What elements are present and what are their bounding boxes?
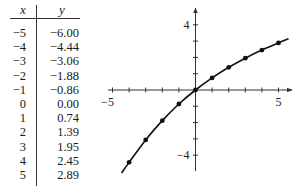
y-tick-label: −4 <box>177 148 190 162</box>
function-curve <box>122 39 289 173</box>
data-point <box>260 48 265 53</box>
data-points <box>127 40 281 164</box>
data-point <box>210 76 215 81</box>
data-point <box>177 102 182 107</box>
data-point <box>226 65 231 70</box>
data-point <box>143 137 148 142</box>
x-tick-label: 5 <box>276 95 282 109</box>
data-point <box>276 40 281 45</box>
x-tick-label: −5 <box>101 95 114 109</box>
data-point <box>193 88 198 93</box>
data-point <box>160 118 165 123</box>
y-tick-label: 4 <box>184 18 190 32</box>
data-point <box>127 160 132 165</box>
data-point <box>243 56 248 61</box>
function-plot: −554−4 <box>0 0 300 193</box>
